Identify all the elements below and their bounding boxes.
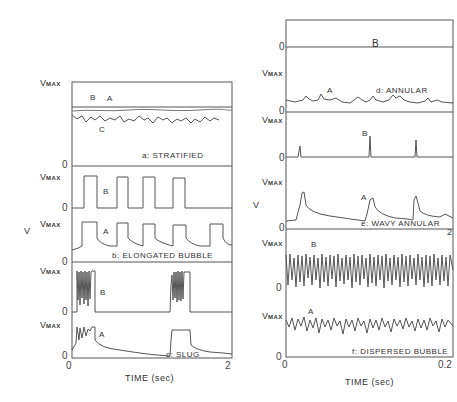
trace-label-e-a: A (361, 193, 367, 202)
trace-label-b-a: A (103, 227, 109, 236)
caption-d: d: ANNULAR (376, 86, 428, 95)
vmax-label-c2: VMAX (40, 320, 61, 330)
x-tick-left-0: 0 (66, 360, 72, 371)
trace-label-b: B (90, 93, 96, 102)
zero-label-b2: 0 (62, 256, 68, 267)
y-axis-label-right: V (253, 200, 260, 210)
vmax-label-a: VMAX (40, 78, 61, 88)
x-tick-right-0: 0 (282, 359, 288, 370)
zero-label-f1: 0 (276, 282, 282, 293)
corner-tick-e: 2 (447, 227, 452, 237)
caption-b: b: ELONGATED BUBBLE (112, 251, 213, 260)
x-tick-left-2: 2 (225, 360, 231, 371)
x-axis-label-right: TIME (sec) (345, 377, 394, 387)
trace-label-e-b: B (362, 129, 368, 138)
vmax-label-e2: VMAX (262, 177, 283, 187)
figure-graphics (0, 0, 457, 402)
zero-label-e2: 0 (279, 222, 285, 233)
vmax-label-b2: VMAX (40, 219, 61, 229)
caption-c: c: SLUG (166, 350, 200, 359)
caption-e: e: WAVY ANNULAR (361, 219, 440, 228)
x-axis-label-left: TIME (sec) (125, 373, 174, 383)
zero-label-c1: 0 (62, 306, 68, 317)
trace-label-c-a: A (99, 330, 105, 339)
trace-label-d-b: B (372, 38, 379, 49)
vmax-label-f1: VMAX (262, 238, 283, 248)
zero-label-f2: 0 (276, 351, 282, 362)
zero-label-b1: 0 (62, 202, 68, 213)
caption-a: a: STRATIFIED (142, 151, 203, 160)
vmax-label-b1: VMAX (40, 172, 61, 182)
trace-label-f-a: A (308, 307, 314, 316)
y-axis-label-left: V (24, 226, 31, 236)
trace-label-d-a: A (327, 86, 333, 95)
caption-f: f: DISPERSED BUBBLE (352, 347, 448, 356)
vmax-label-f2: VMAX (262, 311, 283, 321)
vmax-label-e1: VMAX (262, 115, 283, 125)
trace-label-c-b: B (100, 288, 106, 297)
trace-label-a: A (107, 94, 113, 103)
vmax-label-d: VMAX (262, 68, 283, 78)
zero-label-d1: 0 (279, 41, 285, 52)
trace-label-c: C (99, 125, 105, 134)
trace-label-f-b: B (311, 240, 317, 249)
trace-label-b-b: B (103, 187, 109, 196)
left-panel-frame (72, 82, 232, 358)
vmax-label-c1: VMAX (40, 266, 61, 276)
zero-label-a: 0 (62, 159, 68, 170)
x-tick-right-02: 0.2 (438, 359, 452, 370)
zero-label-e1: 0 (279, 152, 285, 163)
